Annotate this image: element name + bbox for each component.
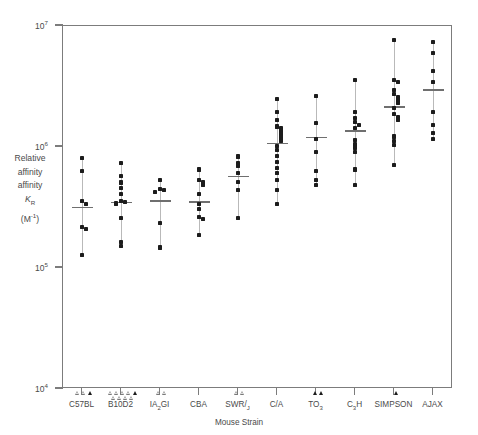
open-triangle-marker: [115, 391, 119, 395]
data-point: [396, 80, 400, 84]
series-c3h: [355, 0, 356, 435]
data-point: [236, 164, 240, 168]
data-point: [275, 160, 279, 164]
data-point: [80, 156, 84, 160]
data-point: [197, 233, 201, 237]
data-point: [119, 174, 123, 178]
open-triangle-marker: [235, 391, 239, 395]
y-tick-2: [55, 266, 63, 267]
data-point: [431, 137, 435, 141]
data-point: [353, 120, 357, 124]
data-point: [314, 150, 318, 154]
data-point: [80, 253, 84, 257]
data-point: [275, 110, 279, 114]
data-point: [119, 216, 123, 220]
data-point: [431, 69, 435, 73]
filled-triangle-marker: [319, 391, 323, 395]
filled-triangle-marker: [88, 391, 92, 395]
data-point: [275, 148, 279, 152]
y-axis-title-line2: affinity: [2, 179, 58, 193]
data-point: [275, 202, 279, 206]
data-point: [119, 180, 123, 184]
x-axis-title: Mouse Strain: [0, 418, 478, 427]
open-triangle-marker: [241, 391, 245, 395]
open-triangle-marker: [112, 396, 116, 400]
mean-marker: [228, 176, 249, 178]
y-tick-label-0: 107: [14, 19, 48, 31]
data-point: [353, 110, 357, 114]
mean-marker: [423, 89, 444, 91]
data-point: [431, 123, 435, 127]
data-point: [119, 244, 123, 248]
data-point: [236, 154, 240, 158]
data-point: [158, 221, 162, 225]
data-point: [275, 97, 279, 101]
y-tick-label-1: 106: [14, 140, 48, 152]
data-point: [396, 101, 400, 105]
data-point: [314, 121, 318, 125]
data-point: [392, 143, 396, 147]
series-c57bl: [82, 0, 83, 435]
open-triangle-marker: [124, 396, 128, 400]
units-open: (M: [21, 214, 31, 224]
data-point: [353, 183, 357, 187]
filled-triangle-marker: [394, 391, 398, 395]
y-tick-label-3: 104: [14, 382, 48, 394]
data-point: [314, 169, 318, 173]
data-point: [392, 92, 396, 96]
open-triangle-marker: [109, 391, 113, 395]
open-triangle-marker: [130, 396, 134, 400]
series-ia2gi: [160, 0, 161, 435]
y-tick-3: [55, 387, 63, 388]
y-tick-0: [55, 24, 63, 25]
k-subscript: R: [31, 198, 35, 205]
data-point: [114, 201, 118, 205]
mean-marker: [150, 200, 171, 202]
data-point: [201, 217, 205, 221]
data-point: [392, 112, 396, 116]
data-point: [123, 200, 127, 204]
series-b10d2: [121, 0, 122, 435]
data-point: [392, 78, 396, 82]
filled-triangle-marker: [133, 391, 137, 395]
series-to3: [316, 0, 317, 435]
data-point: [197, 192, 201, 196]
data-point: [197, 202, 201, 206]
data-point: [158, 187, 162, 191]
data-point: [357, 123, 361, 127]
data-point: [84, 227, 88, 231]
mean-marker: [72, 207, 93, 209]
y-axis-title-units: (M-1): [2, 209, 58, 226]
data-point: [314, 137, 318, 141]
data-point: [236, 171, 240, 175]
data-point: [119, 186, 123, 190]
series-c-a: [277, 0, 278, 435]
data-point: [275, 124, 279, 128]
open-triangle-marker: [157, 391, 161, 395]
figure-scatter-relative-affinity: 107106105104 Relative affinity affinity …: [0, 0, 478, 435]
data-point: [119, 161, 123, 165]
open-triangle-marker: [163, 391, 167, 395]
data-point: [236, 216, 240, 220]
units-close: ): [36, 214, 39, 224]
data-point: [392, 134, 396, 138]
mean-marker: [345, 130, 366, 132]
y-axis-title-line1: Relative affinity: [2, 152, 58, 179]
data-point: [353, 150, 357, 154]
data-point: [431, 110, 435, 114]
data-point: [158, 245, 162, 249]
data-point: [275, 166, 279, 170]
series-swr-j: [238, 0, 239, 435]
filled-triangle-marker: [313, 391, 317, 395]
open-triangle-marker: [118, 396, 122, 400]
data-point: [353, 78, 357, 82]
y-tick-1: [55, 145, 63, 146]
series-cba: [199, 0, 200, 435]
data-point: [80, 225, 84, 229]
data-point: [314, 94, 318, 98]
data-point: [279, 139, 283, 143]
data-point: [396, 118, 400, 122]
data-point: [275, 171, 279, 175]
data-point: [201, 183, 205, 187]
data-point: [153, 190, 157, 194]
